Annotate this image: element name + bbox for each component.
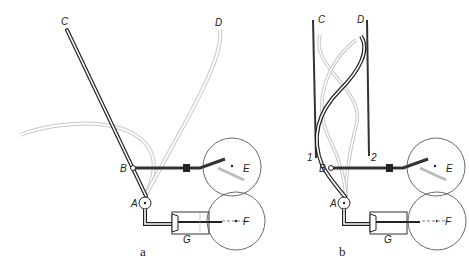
label-2: 2: [370, 152, 377, 163]
label-D: D: [215, 17, 222, 28]
label-A: A: [130, 198, 138, 209]
label-G: G: [183, 234, 191, 245]
label-B: B: [120, 163, 127, 174]
pivot-B: [131, 166, 136, 171]
label-E: E: [446, 163, 453, 174]
label-1: 1: [307, 152, 313, 163]
panel-a: C D B A E F G a: [20, 16, 265, 259]
label-F: F: [243, 216, 250, 227]
panel-b: C D 1 2 B A E F G b: [307, 14, 466, 259]
caption-b: b: [339, 244, 346, 259]
diagram-canvas: C D B A E F G a C: [0, 0, 469, 267]
label-G: G: [384, 234, 392, 245]
label-E: E: [243, 163, 250, 174]
label-B: B: [319, 163, 326, 174]
label-F: F: [445, 216, 452, 227]
label-A: A: [329, 198, 337, 209]
label-C: C: [61, 16, 69, 27]
connector-block: [183, 164, 190, 172]
label-C: C: [318, 14, 326, 25]
detail-circle-E: [407, 138, 465, 196]
rail-2: [367, 20, 369, 156]
caption-a: a: [140, 244, 146, 259]
label-D: D: [357, 14, 364, 25]
pivot-B: [329, 166, 334, 171]
